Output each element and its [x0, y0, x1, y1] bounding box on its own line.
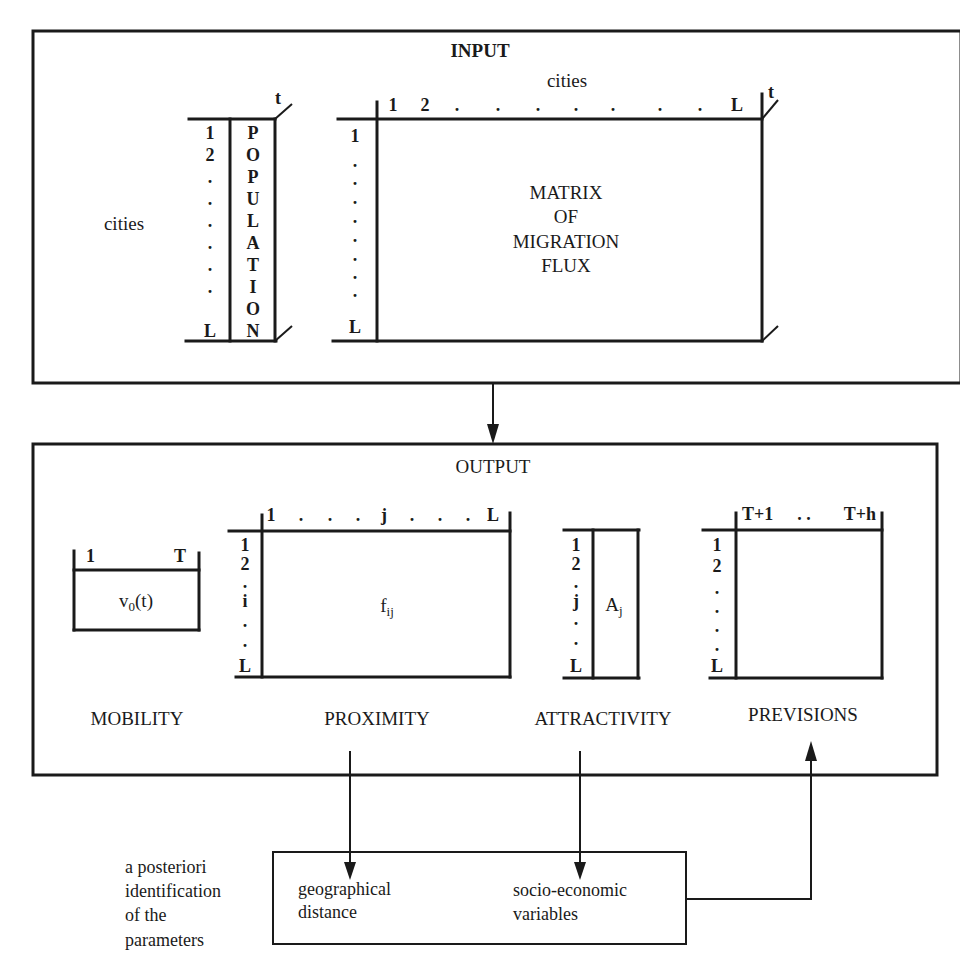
output-title: OUTPUT [456, 456, 531, 477]
svg-text:.: . [574, 95, 579, 115]
svg-text:2: 2 [421, 95, 430, 115]
svg-text:.: . [353, 245, 358, 265]
svg-text:.: . [356, 505, 361, 525]
matrix-row-labels: 1 . . . . . . . . L [349, 126, 361, 337]
svg-text:.: . [574, 629, 579, 649]
attractivity-row-labels: 1 2 . j . . L [570, 535, 582, 676]
svg-text:L: L [570, 656, 582, 676]
svg-text:.: . [299, 505, 304, 525]
svg-text:N: N [247, 321, 260, 341]
cities-left-label: cities [104, 213, 144, 234]
svg-text:.: . [715, 635, 720, 655]
svg-text:1: 1 [713, 535, 722, 555]
svg-text:.: . [208, 255, 213, 275]
svg-text:.: . [611, 95, 616, 115]
svg-text:identification: identification [125, 881, 221, 901]
arrow-attractivity-to-socioeconomic [574, 751, 586, 880]
arrow-socioeconomic-to-previsions [686, 741, 817, 899]
proximity-matrix: 1 . . . j . . . L 1 2 . i . . L fij PROX… [229, 505, 510, 729]
attractivity-cell: Aj [605, 594, 622, 618]
mobility-cell: v0(t) [119, 590, 153, 614]
previsions-col-start: T+1 [742, 504, 773, 524]
time-depth-stroke-bottom [275, 326, 292, 341]
svg-text:.: . [574, 609, 579, 629]
svg-text:.: . [243, 631, 248, 651]
svg-text:a posteriori: a posteriori [125, 857, 206, 877]
matrix-col-labels: 1 2 . . . . . . . L [389, 95, 744, 115]
svg-text:.: . [658, 95, 663, 115]
svg-text:2: 2 [241, 554, 250, 574]
proximity-row-labels: 1 2 . i . . L [239, 535, 251, 676]
input-title: INPUT [450, 40, 509, 61]
output-panel: OUTPUT 1 T v0(t) MOBILITY 1 . . . j . [33, 444, 937, 775]
svg-text:.: . [410, 505, 415, 525]
svg-text:.: . [208, 277, 213, 297]
svg-text:.: . [496, 95, 501, 115]
svg-text:L: L [204, 321, 216, 341]
svg-text:j: j [572, 591, 579, 611]
svg-text:I: I [249, 277, 256, 297]
attractivity-vector: 1 2 . j . . L Aj ATTRACTIVITY [534, 530, 671, 729]
svg-text:MIGRATION: MIGRATION [513, 231, 620, 252]
socio-economic-variables-label: socio-economic variables [513, 880, 627, 924]
svg-text:L: L [731, 95, 743, 115]
svg-text:L: L [239, 656, 251, 676]
proximity-label: PROXIMITY [324, 708, 430, 729]
population-time-label: t [275, 88, 281, 108]
svg-text:O: O [246, 145, 260, 165]
svg-text:2: 2 [572, 554, 581, 574]
attractivity-label: ATTRACTIVITY [534, 708, 671, 729]
svg-text:1: 1 [267, 505, 276, 525]
previsions-label: PREVISIONS [748, 704, 858, 725]
previsions-col-dots: . . [797, 504, 811, 524]
svg-text:i: i [242, 591, 247, 611]
proximity-cell: fij [380, 595, 394, 619]
proximity-col-labels: 1 . . . j . . . L [267, 505, 500, 525]
svg-text:1: 1 [389, 95, 398, 115]
svg-text:.: . [353, 188, 358, 208]
arrow-proximity-to-geographical [344, 751, 356, 880]
svg-text:.: . [353, 169, 358, 189]
svg-text:O: O [246, 299, 260, 319]
svg-text:L: L [349, 317, 361, 337]
population-row-labels: 1 2 . . . . . . L [204, 123, 216, 341]
svg-text:T: T [247, 255, 259, 275]
migration-matrix: t 1 2 . . . . . . . L 1 . . . . . . [333, 82, 778, 341]
svg-text:parameters: parameters [125, 930, 204, 950]
svg-text:variables: variables [513, 904, 578, 924]
identification-side-label: a posteriori identification of the param… [125, 857, 221, 950]
svg-text:2: 2 [206, 145, 215, 165]
svg-text:.: . [455, 95, 460, 115]
svg-text:.: . [574, 572, 579, 592]
svg-text:1: 1 [206, 123, 215, 143]
svg-text:1: 1 [572, 535, 581, 555]
input-frame [33, 31, 960, 383]
svg-text:P: P [248, 123, 259, 143]
population-vector: t 1 2 . . . . . . L P O P U L A T I [186, 88, 292, 341]
svg-text:.: . [715, 597, 720, 617]
svg-text:geographical: geographical [298, 879, 391, 899]
svg-text:FLUX: FLUX [541, 255, 591, 276]
svg-text:.: . [243, 572, 248, 592]
matrix-title: MATRIX OF MIGRATION FLUX [513, 182, 620, 276]
svg-text:L: L [487, 505, 499, 525]
svg-text:U: U [247, 189, 260, 209]
svg-text:OF: OF [554, 206, 578, 227]
input-panel: INPUT cities cities t 1 2 . . . . . . L [33, 31, 960, 383]
svg-text:.: . [536, 95, 541, 115]
svg-text:.: . [208, 233, 213, 253]
svg-text:L: L [247, 211, 259, 231]
svg-text:.: . [715, 578, 720, 598]
svg-text:L: L [711, 656, 723, 676]
population-vertical-text: P O P U L A T I O N [246, 123, 260, 341]
svg-text:.: . [715, 616, 720, 636]
diagram-canvas: INPUT cities cities t 1 2 . . . . . . L [0, 0, 960, 977]
svg-text:.: . [208, 211, 213, 231]
svg-text:1: 1 [351, 126, 360, 146]
svg-text:distance: distance [298, 902, 357, 922]
mobility-start: 1 [86, 546, 95, 566]
svg-text:A: A [247, 233, 260, 253]
svg-text:of the: of the [125, 905, 166, 925]
svg-text:.: . [353, 207, 358, 227]
svg-text:j: j [380, 505, 387, 525]
